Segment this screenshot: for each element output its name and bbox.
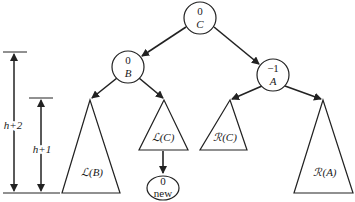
edge-a-ra [285, 86, 321, 99]
edge-c-b [142, 27, 186, 56]
node-a-balance: −1 [267, 62, 279, 74]
subtree-lb: ℒ(B) [62, 100, 120, 193]
node-c: 0 C [184, 2, 216, 34]
subtree-rc: ℛ(C) [200, 100, 247, 150]
subtree-ra: ℛ(A) [294, 100, 353, 193]
subtree-ra-label: ℛ(A) [313, 166, 336, 179]
edge-a-rc [232, 86, 262, 99]
dimension-h1-label: h+1 [33, 143, 51, 155]
node-b-name: B [125, 67, 132, 79]
node-b-balance: 0 [125, 54, 131, 66]
node-c-balance: 0 [197, 5, 203, 17]
node-a-name: A [269, 75, 277, 87]
node-new-balance: 0 [160, 175, 166, 187]
node-new-name: new [154, 187, 172, 199]
avl-tree-diagram: 0 C 0 B −1 A 0 new ℒ(B) ℒ(C) ℛ(C) ℛ(A) h [0, 0, 355, 202]
edge-b-lc [139, 78, 163, 98]
node-b: 0 B [112, 51, 144, 83]
node-new: 0 new [147, 175, 179, 200]
edge-b-lb [92, 78, 117, 98]
tree-edges [92, 27, 321, 173]
subtree-rc-label: ℛ(C) [213, 131, 237, 144]
dimension-h2-label: h+2 [4, 119, 23, 131]
node-c-name: C [196, 18, 204, 30]
subtree-lc-label: ℒ(C) [152, 131, 175, 144]
node-a: −1 A [257, 59, 289, 91]
subtree-lc: ℒ(C) [139, 100, 188, 150]
edge-c-a [214, 27, 259, 64]
subtree-lb-label: ℒ(B) [81, 166, 103, 179]
